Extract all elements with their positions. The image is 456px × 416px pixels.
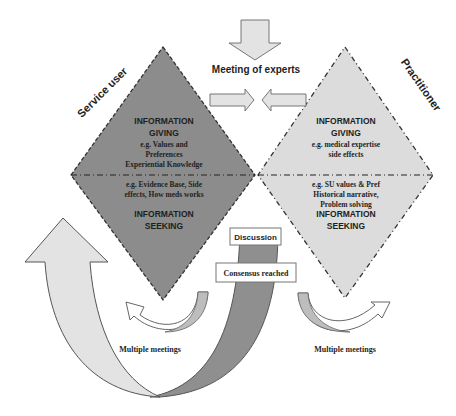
left-giving-heading-1: INFORMATION bbox=[134, 116, 193, 126]
left-giving-line: Preferences bbox=[145, 150, 182, 159]
diagram-canvas: Meeting of experts Service user Practiti… bbox=[0, 0, 456, 416]
right-giving-line: e.g. medical expertise bbox=[312, 140, 381, 149]
discussion-label: Discussion bbox=[234, 233, 277, 242]
left-multiple-meetings-label: Multiple meetings bbox=[119, 345, 181, 354]
right-seeking-line: e.g. SU values & Pref bbox=[312, 180, 380, 189]
down-arrow-icon bbox=[229, 20, 281, 60]
right-seeking-line: Problem solving bbox=[320, 200, 372, 209]
left-seeking-line: effects, How meds works bbox=[124, 190, 203, 199]
right-giving-line: side effects bbox=[329, 150, 364, 159]
right-seeking-heading-1: INFORMATION bbox=[316, 209, 375, 219]
left-seeking-heading-2: SEEKING bbox=[145, 221, 184, 231]
right-seeking-line: Historical narrative, bbox=[313, 190, 379, 199]
left-seeking-line: e.g. Evidence Base, Side bbox=[126, 180, 203, 189]
right-multiple-meetings-label: Multiple meetings bbox=[314, 345, 376, 354]
left-giving-line: e.g. Values and bbox=[140, 140, 188, 149]
consensus-label: Consensus reached bbox=[224, 269, 290, 278]
practitioner-label: Practitioner bbox=[399, 56, 444, 114]
left-giving-line: Experiential Knowledge bbox=[125, 160, 203, 169]
meeting-of-experts-label: Meeting of experts bbox=[212, 64, 301, 75]
left-giving-heading-2: GIVING bbox=[149, 128, 179, 138]
right-pointing-arrow-icon bbox=[210, 89, 254, 111]
left-seeking-heading-1: INFORMATION bbox=[134, 209, 193, 219]
left-pointing-arrow-icon bbox=[262, 89, 306, 111]
right-giving-heading-2: GIVING bbox=[331, 128, 361, 138]
right-seeking-heading-2: SEEKING bbox=[327, 221, 366, 231]
practitioner-diamond bbox=[258, 47, 433, 298]
right-giving-heading-1: INFORMATION bbox=[316, 116, 375, 126]
